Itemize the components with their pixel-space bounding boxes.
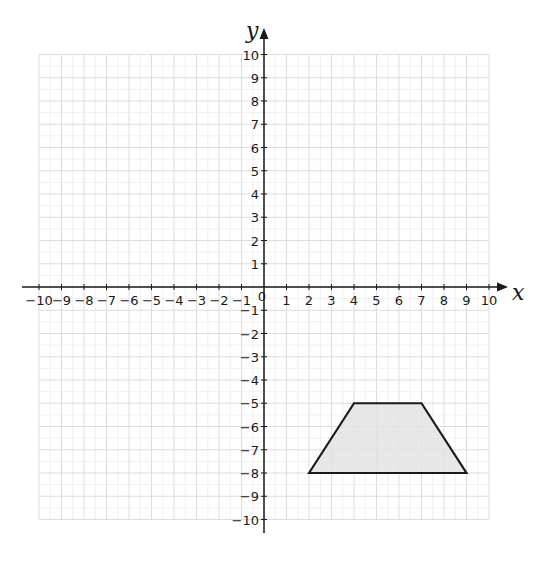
x-tick-label: 10	[481, 293, 498, 308]
x-tick-label: 5	[372, 293, 380, 308]
x-tick-label: −3	[187, 293, 206, 308]
y-tick-label: −9	[240, 489, 259, 504]
y-axis-title: y	[245, 18, 259, 43]
x-tick-label: 7	[417, 293, 425, 308]
x-tick-label: −6	[119, 293, 138, 308]
y-tick-label: 1	[251, 257, 259, 272]
y-tick-label: 7	[251, 117, 259, 132]
x-tick-label: 6	[395, 293, 403, 308]
y-tick-label: −4	[240, 373, 259, 388]
x-tick-label: −5	[142, 293, 161, 308]
y-tick-label: −8	[240, 466, 259, 481]
x-tick-label: 9	[462, 293, 470, 308]
y-tick-label: 9	[251, 71, 259, 86]
shapes-layer	[309, 403, 467, 473]
y-tick-label: 5	[251, 164, 259, 179]
y-tick-label: 6	[251, 141, 259, 156]
origin-label: 0	[258, 289, 266, 304]
y-tick-label: −10	[232, 513, 259, 528]
y-tick-label: −6	[240, 420, 259, 435]
y-tick-label: 3	[251, 210, 259, 225]
y-tick-label: −2	[240, 327, 259, 342]
x-tick-label: −4	[164, 293, 183, 308]
y-axis-arrow-icon	[260, 28, 269, 39]
trapezoid-shape	[309, 403, 467, 473]
x-tick-label: −7	[97, 293, 116, 308]
x-tick-label: 1	[282, 293, 290, 308]
y-tick-label: −7	[240, 443, 259, 458]
x-tick-label: 4	[350, 293, 358, 308]
x-tick-label: −9	[52, 293, 71, 308]
x-tick-label: −8	[74, 293, 93, 308]
y-tick-label: 2	[251, 234, 259, 249]
x-tick-label: 3	[327, 293, 335, 308]
x-tick-label: −10	[25, 293, 52, 308]
y-tick-label: −5	[240, 396, 259, 411]
x-axis-arrow-icon	[497, 283, 508, 292]
y-tick-label: 4	[251, 187, 259, 202]
y-tick-label: 8	[251, 94, 259, 109]
coordinate-grid: −10−9−8−7−6−5−4−3−2−11234567891010987654…	[0, 0, 552, 565]
y-tick-label: −1	[240, 303, 259, 318]
y-tick-label: 10	[242, 48, 259, 63]
x-axis-title: x	[512, 280, 525, 305]
x-tick-label: 2	[305, 293, 313, 308]
y-tick-label: −3	[240, 350, 259, 365]
x-tick-label: 8	[440, 293, 448, 308]
x-tick-label: −2	[209, 293, 228, 308]
